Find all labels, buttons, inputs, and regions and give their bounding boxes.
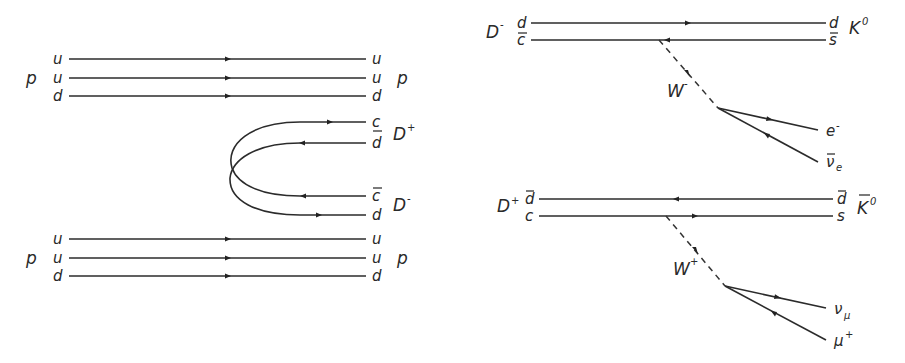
neutrino-flavor: μ — [843, 310, 850, 321]
boson-label: W — [667, 81, 685, 101]
arrow-left-icon — [664, 38, 670, 43]
quark-label-dbar: d — [372, 134, 382, 152]
arrow-right-icon — [225, 237, 231, 242]
quark-label: u — [53, 50, 63, 68]
antimuon-charge: + — [845, 329, 853, 340]
electron-label: e — [826, 122, 835, 140]
electron-charge: - — [836, 120, 840, 131]
quark-label: u — [372, 69, 382, 87]
quark-label-cbar: c — [517, 31, 526, 49]
superscript-label: 0 — [862, 16, 868, 27]
arrow-right-icon — [692, 214, 698, 219]
neutrino-flavor: e — [836, 162, 842, 173]
quark-label-dbar: d — [525, 190, 535, 208]
quark-label: u — [53, 230, 63, 248]
quark-label: d — [372, 267, 382, 285]
feynman-diagrams: p u u d u u d p c — [0, 0, 905, 363]
quark-label: u — [53, 69, 63, 87]
dplus-semileptonic-decay: D + d c d s K 0 W + ν μ μ + — [497, 190, 876, 350]
quark-label-d: d — [517, 14, 527, 32]
quark-label-c: c — [372, 113, 381, 131]
quark-label-cbar: c — [372, 187, 381, 205]
initial-hadron-label: D — [497, 196, 510, 216]
arrow-right-icon — [225, 57, 231, 62]
quark-label-dbar: d — [837, 190, 847, 208]
quark-label: d — [53, 87, 63, 105]
bottom-proton: p u u d u u d p — [25, 230, 408, 285]
charge-label: - — [407, 193, 411, 204]
arrow-left-icon — [771, 311, 777, 317]
arrow-left-icon — [300, 194, 306, 199]
hadron-label-dminus: D — [393, 195, 406, 215]
quark-label: u — [372, 230, 382, 248]
initial-hadron-label: D — [486, 22, 499, 42]
muon-neutrino-label: ν — [834, 300, 842, 318]
arrow-down-icon — [684, 70, 690, 77]
proton-out-label: p — [396, 248, 408, 268]
arrow-right-icon — [327, 120, 333, 125]
neutrino-label: ν — [826, 153, 834, 171]
hadron-label-dplus: D — [393, 124, 406, 144]
quark-label: d — [53, 267, 63, 285]
final-hadron-label: K — [849, 18, 862, 38]
superscript-label: 0 — [870, 196, 876, 207]
proton-in-label: p — [25, 248, 37, 268]
charge-label: + — [407, 122, 415, 133]
antimuon-label: μ — [833, 332, 844, 350]
arrow-left-icon — [299, 141, 305, 146]
arrow-left-icon — [673, 197, 679, 202]
arrow-left-icon — [764, 133, 770, 139]
arrow-right-icon — [225, 274, 231, 279]
quark-label: u — [372, 249, 382, 267]
arrow-right-icon — [316, 213, 322, 218]
c-cbar-arc — [231, 122, 366, 196]
dd-pair-production: c d D + c d D - — [230, 113, 415, 224]
boson-charge: + — [690, 256, 698, 267]
dbar-d-arc — [230, 143, 366, 215]
arrow-right-icon — [225, 94, 231, 99]
quark-label-s: s — [837, 207, 845, 225]
boson-label: W — [673, 259, 691, 279]
arrow-right-icon — [225, 76, 231, 81]
dminus-semileptonic-decay: D - d c d s K 0 W - e - ν e — [486, 14, 868, 173]
arrow-right-icon — [225, 256, 231, 261]
quark-label-c: c — [525, 207, 534, 225]
quark-label: u — [372, 50, 382, 68]
top-proton: p u u d u u d p — [25, 50, 408, 105]
quark-label-sbar: s — [829, 31, 837, 49]
left-diagram-pp-to-dd: p u u d u u d p c — [25, 50, 415, 285]
arrow-right-icon — [685, 21, 691, 26]
charge-label: - — [500, 19, 504, 30]
proton-in-label: p — [25, 68, 37, 88]
proton-out-label: p — [396, 68, 408, 88]
quark-label-d: d — [829, 14, 839, 32]
charge-label: + — [511, 195, 519, 206]
quark-label: d — [372, 87, 382, 105]
boson-charge: - — [684, 78, 688, 89]
final-hadron-label: K — [857, 198, 870, 218]
quark-label-d: d — [372, 206, 382, 224]
quark-label: u — [53, 249, 63, 267]
